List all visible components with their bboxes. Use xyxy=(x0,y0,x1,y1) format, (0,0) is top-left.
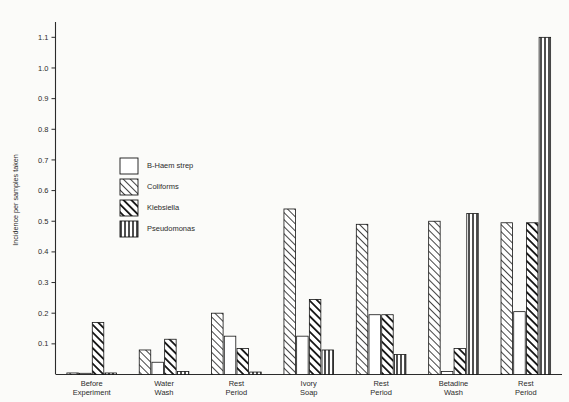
bar-pseudomonas-group-2 xyxy=(177,371,189,374)
x-category-label-2: Wash xyxy=(155,388,174,397)
bar-coliforms-group-2 xyxy=(139,350,151,375)
y-tick-label: 0.6 xyxy=(38,186,48,195)
bar-klebsiella-group-4 xyxy=(309,299,321,374)
bar-klebsiella-group-7 xyxy=(526,223,538,375)
bar-coliforms-group-4 xyxy=(284,209,296,375)
x-category-label-2: Water xyxy=(154,379,174,388)
legend-label-coliforms: Coliforms xyxy=(147,182,179,191)
y-tick-label: 0.8 xyxy=(38,125,48,134)
x-category-label-1: Experiment xyxy=(73,388,112,397)
bar-coliforms-group-1 xyxy=(67,373,79,375)
x-category-label-5: Period xyxy=(370,388,392,397)
bar-b-haem-strep-group-1 xyxy=(80,373,92,374)
y-tick-label: 0.7 xyxy=(38,156,48,165)
y-tick-label: 0.1 xyxy=(38,339,48,348)
bar-coliforms-group-6 xyxy=(429,221,441,374)
bar-b-haem-strep-group-5 xyxy=(369,315,381,375)
y-tick-label: 0.4 xyxy=(38,247,48,256)
x-category-label-1: Before xyxy=(81,379,103,388)
legend-label-b-haem-strep: B-Haem strep xyxy=(147,161,193,170)
y-tick-label: 0.3 xyxy=(38,278,48,287)
legend-swatch-b-haem-strep xyxy=(120,158,138,174)
legend-swatch-klebsiella xyxy=(120,200,138,216)
y-tick-label: 0.2 xyxy=(38,309,48,318)
y-tick-label: 0.5 xyxy=(38,217,48,226)
legend-swatch-coliforms xyxy=(120,179,138,195)
legend-label-klebsiella: Klebsiella xyxy=(147,203,180,212)
bar-klebsiella-group-6 xyxy=(454,348,466,374)
x-category-label-6: Betadine xyxy=(439,379,469,388)
bar-chart-svg: 0.10.20.30.40.50.60.70.80.91.01.1 Incide… xyxy=(0,0,569,402)
x-category-label-3: Period xyxy=(226,388,248,397)
bar-pseudomonas-group-5 xyxy=(394,355,406,375)
bar-klebsiella-group-5 xyxy=(382,315,394,375)
x-category-label-6: Wash xyxy=(444,388,463,397)
x-category-label-5: Rest xyxy=(373,379,389,388)
x-category-label-7: Rest xyxy=(518,379,534,388)
legend-swatch-pseudomonas xyxy=(120,221,138,237)
bar-b-haem-strep-group-7 xyxy=(514,312,526,375)
bar-b-haem-strep-group-2 xyxy=(152,362,164,374)
y-tick-label: 1.0 xyxy=(38,64,48,73)
y-tick-label: 1.1 xyxy=(38,33,48,42)
bar-pseudomonas-group-4 xyxy=(322,350,334,375)
legend-label-pseudomonas: Pseudomonas xyxy=(147,224,195,233)
x-category-label-4: Soap xyxy=(300,388,318,397)
bar-b-haem-strep-group-3 xyxy=(224,336,236,374)
bar-coliforms-group-5 xyxy=(356,224,368,374)
chart-container: 0.10.20.30.40.50.60.70.80.91.01.1 Incide… xyxy=(0,0,569,402)
x-category-label-7: Period xyxy=(515,388,537,397)
bar-pseudomonas-group-1 xyxy=(105,373,117,375)
bar-klebsiella-group-3 xyxy=(237,348,249,374)
bar-b-haem-strep-group-6 xyxy=(441,371,453,374)
bar-pseudomonas-group-6 xyxy=(467,214,479,375)
bar-coliforms-group-3 xyxy=(212,313,224,374)
bar-klebsiella-group-2 xyxy=(165,339,177,374)
y-tick-label: 0.9 xyxy=(38,94,48,103)
bar-b-haem-strep-group-4 xyxy=(297,336,309,374)
x-category-label-4: Ivory xyxy=(301,379,318,388)
y-axis-title: Incidence per samples taken xyxy=(11,154,20,246)
x-category-label-3: Rest xyxy=(229,379,245,388)
bar-pseudomonas-group-7 xyxy=(539,37,551,374)
bar-klebsiella-group-1 xyxy=(92,322,104,374)
bar-pseudomonas-group-3 xyxy=(250,372,262,374)
bar-coliforms-group-7 xyxy=(501,223,513,375)
